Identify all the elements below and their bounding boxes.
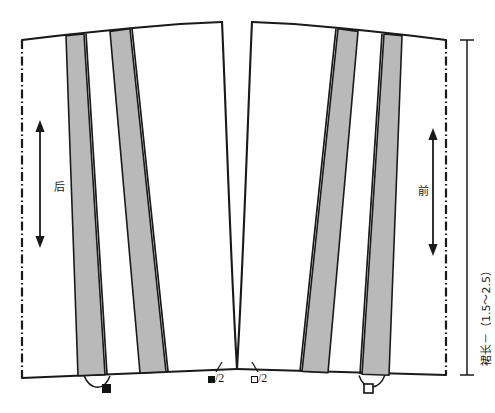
front-panel-label: 前 xyxy=(418,186,429,197)
back-hem-measure-text: /2 xyxy=(215,371,224,385)
front-hem-notch-marker xyxy=(364,384,373,393)
back-gore-1 xyxy=(66,34,105,376)
front-hem-measure-label: /2 xyxy=(251,372,267,384)
back-hem-notch-marker xyxy=(102,384,111,393)
open-square-icon xyxy=(251,376,258,383)
pattern-linework xyxy=(0,0,495,413)
back-side-seam xyxy=(222,22,237,369)
front-hemline xyxy=(237,369,446,375)
front-grainline-arrow xyxy=(428,128,437,256)
back-panel-label: 后 xyxy=(54,182,65,193)
skirt-length-dimension-bracket xyxy=(460,40,474,375)
back-grainline-arrow xyxy=(35,120,44,248)
pattern-diagram-canvas: 后 前 /2 /2 裙长－（1.5～2.5） xyxy=(0,0,495,413)
filled-square-icon xyxy=(208,376,215,383)
back-hem-measure-label: /2 xyxy=(208,372,224,384)
skirt-length-dimension-label: 裙长－（1.5～2.5） xyxy=(481,265,492,366)
back-hemline xyxy=(22,369,237,378)
front-hem-measure-text: /2 xyxy=(258,371,267,385)
front-side-seam xyxy=(237,22,252,369)
front-gore-1 xyxy=(362,34,402,375)
